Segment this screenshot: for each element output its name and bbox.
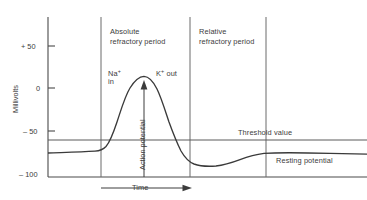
- potassium-direction: out: [166, 69, 177, 78]
- membrane-potential-curve: [48, 76, 367, 166]
- y-tick-label-plus50: + 50: [21, 42, 36, 51]
- sodium-influx-direction: in: [108, 77, 114, 87]
- y-axis-title: Millivolts: [11, 85, 20, 113]
- region-label-absolute-line1: Absolute: [110, 27, 140, 37]
- x-axis-title: Time: [132, 183, 149, 193]
- potassium-charge: +: [161, 68, 164, 74]
- action-potential-figure: [0, 0, 367, 200]
- y-tick-label-minus100: – 100: [19, 170, 38, 179]
- region-label-relative-line1: Relative: [199, 27, 227, 37]
- y-tick-label-minus50: – 50: [23, 127, 37, 136]
- y-tick-label-zero: 0: [36, 84, 40, 93]
- action-potential-label: Action potential: [138, 119, 147, 170]
- sodium-charge: +: [118, 68, 121, 74]
- resting-potential-label: Resting potential: [276, 156, 333, 166]
- time-arrow-head: [183, 185, 193, 191]
- potassium-efflux-label: K+ out: [156, 67, 177, 79]
- action-potential-arrow-head: [141, 80, 148, 90]
- region-label-relative-line2: refractory period: [199, 37, 255, 47]
- region-label-absolute-line2: refractory period: [110, 37, 166, 47]
- threshold-value-label: Threshold value: [238, 128, 292, 138]
